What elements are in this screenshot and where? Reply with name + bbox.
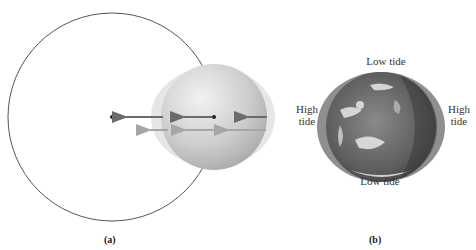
low-tide-label-bottom: Low tide [350, 175, 410, 187]
earth-center-dot [212, 115, 216, 119]
panel-b [317, 72, 445, 182]
panel-a [8, 13, 275, 221]
low-tide-label-top: Low tide [356, 55, 416, 67]
high-tide-label-left: High tide [290, 103, 324, 127]
high-tide-label-right: High tide [442, 103, 476, 127]
high-tide-right-line1: High [442, 103, 476, 115]
panel-a-caption: (a) [104, 234, 116, 245]
high-tide-left-line1: High [290, 103, 324, 115]
high-tide-left-line2: tide [290, 115, 324, 127]
high-tide-right-line2: tide [442, 115, 476, 127]
panel-b-caption: (b) [369, 234, 381, 245]
tides-diagram [0, 0, 476, 250]
orbit-center-dot [110, 115, 114, 119]
